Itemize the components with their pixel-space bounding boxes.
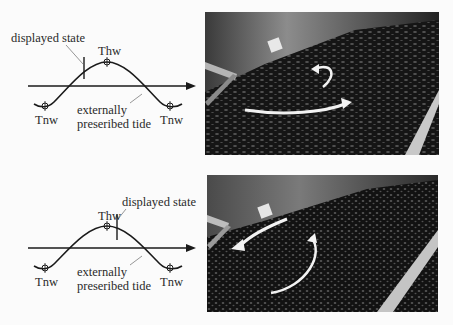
basin-photo-top xyxy=(205,12,439,155)
tide-curve-plot xyxy=(0,162,200,322)
tide-label-line2: preseribed tide xyxy=(77,280,151,293)
low-water-label-right: Tnw xyxy=(160,114,183,127)
tide-label-line2: preseribed tide xyxy=(77,118,151,131)
tide-diagram-bottom: displayed state Thw Tnw Tnw externally p… xyxy=(0,162,200,322)
tide-label-line1: externally xyxy=(77,104,127,117)
tide-curve-plot xyxy=(0,0,200,160)
displayed-state-label: displayed state xyxy=(122,196,196,209)
low-water-label-right: Tnw xyxy=(160,276,183,289)
basin-photo-graphic xyxy=(207,175,438,312)
basin-photo-bottom xyxy=(207,175,438,312)
low-water-label-left: Tnw xyxy=(35,114,58,127)
axis-arrow-icon xyxy=(186,244,196,252)
high-water-label: Thw xyxy=(98,210,121,223)
displayed-state-label: displayed state xyxy=(11,32,85,45)
tide-diagram-top: displayed state Thw Tnw Tnw externally p… xyxy=(0,0,200,160)
axis-arrow-icon xyxy=(186,82,196,90)
basin-photo-graphic xyxy=(205,12,439,155)
tide-curve xyxy=(34,62,182,107)
high-water-label: Thw xyxy=(98,45,121,58)
low-water-label-left: Tnw xyxy=(35,276,58,289)
tide-label-line1: externally xyxy=(77,266,127,279)
